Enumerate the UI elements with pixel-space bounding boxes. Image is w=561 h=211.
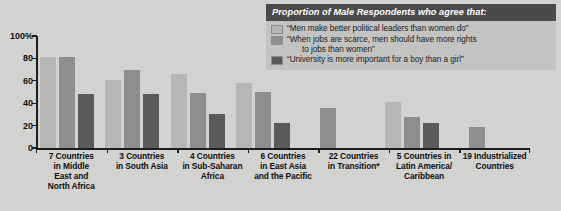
- x-axis-label-line: 4 Countries: [178, 151, 247, 161]
- y-tick-label: 0: [0, 143, 33, 153]
- y-tick-mark: [32, 103, 37, 104]
- bar: [190, 93, 206, 148]
- bar: [78, 94, 94, 148]
- x-axis-label-line: 5 Countries in: [390, 151, 459, 161]
- x-axis-label-line: 6 Countries: [249, 151, 318, 161]
- x-axis-label-line: Latin America/: [390, 161, 459, 171]
- y-tick-mark: [32, 80, 37, 81]
- x-axis-label: 3 Countriesin South Asia: [107, 151, 178, 191]
- y-tick-mark: [32, 35, 37, 36]
- bar: [171, 74, 187, 148]
- bar: [209, 114, 225, 148]
- x-axis-label-line: North Africa: [37, 181, 106, 191]
- x-axis-label-line: Caribbean: [390, 171, 459, 181]
- bar: [274, 123, 290, 148]
- x-axis-label: 4 Countriesin Sub-SaharanAfrica: [177, 151, 248, 191]
- y-tick-label: 100%: [0, 31, 33, 41]
- bar-group: [231, 36, 296, 148]
- x-axis-label-line: in Middle: [37, 161, 106, 171]
- x-axis-label-line: 7 Countries: [37, 151, 106, 161]
- bar: [40, 57, 56, 148]
- y-tick-label: 60: [0, 76, 33, 86]
- x-axis-label: 5 Countries inLatin America/Caribbean: [389, 151, 460, 191]
- x-axis-label: 19 IndustrializedCountries: [459, 151, 530, 191]
- bar-group: [101, 36, 166, 148]
- bar: [124, 70, 140, 148]
- y-tick-label: 80: [0, 53, 33, 63]
- bar: [236, 83, 252, 148]
- y-tick-label: 40: [0, 98, 33, 108]
- bar: [143, 94, 159, 148]
- bar: [469, 127, 485, 148]
- x-axis-label-line: in Transition*: [319, 161, 388, 171]
- bar-group: [36, 36, 101, 148]
- chart-page: Proportion of Male Respondents who agree…: [0, 0, 561, 211]
- y-tick-mark: [32, 58, 37, 59]
- bar-group: [381, 36, 446, 148]
- bar: [59, 57, 75, 148]
- x-axis-label-line: 3 Countries: [108, 151, 177, 161]
- bar: [404, 117, 420, 148]
- x-axis-label: 6 Countriesin East Asiaand the Pacific: [248, 151, 319, 191]
- x-axis-label-line: Africa: [178, 171, 247, 181]
- x-axis-label-line: Countries: [460, 161, 529, 171]
- bar-groups: [36, 36, 530, 148]
- plot-area: [36, 36, 530, 148]
- y-axis-labels: 100%806040200: [0, 36, 33, 148]
- y-tick-mark: [32, 125, 37, 126]
- x-axis-label-line: 22 Countries: [319, 151, 388, 161]
- x-axis-label: 22 Countriesin Transition*: [318, 151, 389, 191]
- bar-group: [446, 36, 530, 148]
- bar: [385, 102, 401, 148]
- bar: [255, 92, 271, 148]
- bar: [105, 80, 121, 148]
- x-axis-label-line: in Sub-Saharan: [178, 161, 247, 171]
- x-axis-labels: 7 Countriesin MiddleEast andNorth Africa…: [36, 151, 530, 191]
- x-axis-line: [36, 148, 530, 150]
- bar-group: [166, 36, 231, 148]
- x-axis-label-line: East and: [37, 171, 106, 181]
- x-axis-label: 7 Countriesin MiddleEast andNorth Africa: [36, 151, 107, 191]
- x-axis-label-line: in East Asia: [249, 161, 318, 171]
- bar-group: [297, 36, 381, 148]
- y-tick-label: 20: [0, 121, 33, 131]
- bar-chart: 100%806040200 7 Countriesin MiddleEast a…: [0, 0, 561, 211]
- x-axis-label-line: 19 Industrialized: [460, 151, 529, 161]
- bar: [423, 123, 439, 148]
- x-axis-label-line: in South Asia: [108, 161, 177, 171]
- x-axis-label-line: and the Pacific: [249, 171, 318, 181]
- bar: [320, 108, 336, 148]
